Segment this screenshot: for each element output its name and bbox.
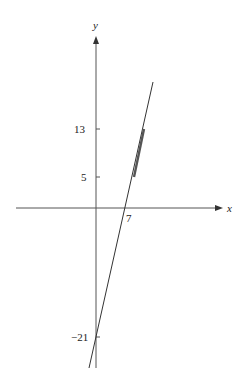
- y-axis-label: y: [92, 19, 98, 31]
- y-tick-label-neg21: −21: [71, 331, 88, 343]
- chart-canvas: y x 13 5 −21 7: [0, 0, 249, 378]
- highlighted-segment: [134, 129, 144, 177]
- y-tick-label-13: 13: [74, 123, 86, 135]
- x-axis-label: x: [226, 202, 232, 214]
- line-y-3x-21: [89, 82, 153, 368]
- x-tick-label-7: 7: [126, 212, 132, 224]
- y-axis-arrow-icon: [93, 36, 99, 44]
- y-tick-label-5: 5: [81, 171, 87, 183]
- x-axis-arrow-icon: [215, 205, 223, 211]
